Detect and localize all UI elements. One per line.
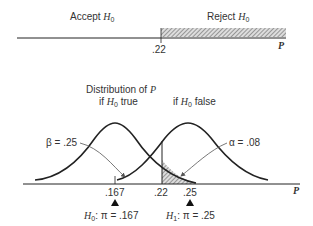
rejection-region-hatch <box>161 28 286 37</box>
h0-hypothesis-label: H0: π = .167 <box>83 210 139 222</box>
hypothesis-test-diagram: Accept H0 Reject H0 .22 P Distribution o… <box>0 0 313 226</box>
critical-value-label: .22 <box>152 44 166 55</box>
distribution-title: Distribution of P <box>86 84 156 95</box>
accept-region-label: Accept H0 <box>70 11 115 23</box>
h1-marker-triangle-icon <box>186 199 194 206</box>
h0-true-label: if H0 true <box>99 96 138 108</box>
h0-false-label: if H0 false <box>173 96 216 108</box>
distributions-chart: Distribution of P if H0 true if H0 false… <box>23 84 300 222</box>
h0-marker-triangle-icon <box>111 199 119 206</box>
tick-label-167: .167 <box>105 187 125 198</box>
h1-distribution-curve <box>117 123 268 180</box>
alpha-label: α = .08 <box>229 137 261 148</box>
h0-distribution-curve <box>35 123 196 183</box>
h1-hypothesis-label: H1: π = .25 <box>165 210 215 222</box>
decision-axis: Accept H0 Reject H0 .22 P <box>17 11 286 55</box>
tick-label-25: .25 <box>183 187 197 198</box>
axis-label-p-top: P <box>278 40 285 51</box>
alpha-arrow <box>181 143 227 176</box>
beta-label: β = .25 <box>46 137 77 148</box>
tick-label-22: .22 <box>154 187 168 198</box>
axis-label-p-bottom: P <box>293 185 300 196</box>
reject-region-label: Reject H0 <box>207 11 249 23</box>
